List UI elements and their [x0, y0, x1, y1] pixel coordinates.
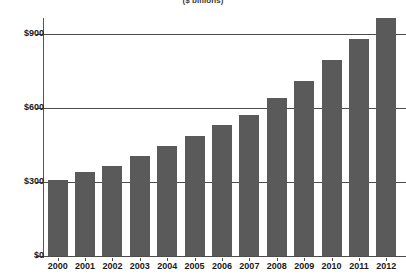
bar-2010[interactable]: [322, 60, 342, 256]
y-axis-tick-label: $0: [4, 250, 44, 260]
x-axis-tick-labels: 2000200120022003200420052006200720082009…: [44, 258, 400, 276]
y-axis-tick-label: $900: [4, 28, 44, 38]
bar-slot: [99, 0, 126, 256]
x-axis-baseline: [36, 256, 406, 257]
x-axis-tick-label-2010: 2010: [318, 261, 345, 271]
bar-series: [44, 0, 400, 256]
x-axis-tick-label-2006: 2006: [208, 261, 235, 271]
bar-2002[interactable]: [102, 166, 122, 256]
x-axis-tick-label-2011: 2011: [345, 261, 372, 271]
bar-2009[interactable]: [294, 81, 314, 256]
bar-2008[interactable]: [267, 98, 287, 256]
x-axis-tick-label-2009: 2009: [290, 261, 317, 271]
x-axis-tick-label-2007: 2007: [236, 261, 263, 271]
bar-2011[interactable]: [349, 39, 369, 256]
x-axis-tick-label-2003: 2003: [126, 261, 153, 271]
bar-slot: [236, 0, 263, 256]
x-axis-tick-label-2008: 2008: [263, 261, 290, 271]
bar-slot: [263, 0, 290, 256]
bar-2007[interactable]: [239, 115, 259, 256]
bar-slot: [71, 0, 98, 256]
x-axis-tick-label-2012: 2012: [373, 261, 400, 271]
bar-slot: [208, 0, 235, 256]
bar-2003[interactable]: [130, 156, 150, 256]
y-axis-tick-label: $600: [4, 102, 44, 112]
x-axis-tick-label-2001: 2001: [71, 261, 98, 271]
bar-2000[interactable]: [48, 180, 68, 256]
x-axis-tick-label-2002: 2002: [99, 261, 126, 271]
bar-slot: [44, 0, 71, 256]
bar-2006[interactable]: [212, 125, 232, 256]
y-axis-tick-label: $300: [4, 176, 44, 186]
bar-2005[interactable]: [185, 136, 205, 256]
bar-2004[interactable]: [157, 146, 177, 256]
bar-slot: [290, 0, 317, 256]
bar-slot: [154, 0, 181, 256]
x-axis-tick-label-2005: 2005: [181, 261, 208, 271]
bar-2001[interactable]: [75, 172, 95, 256]
x-axis-tick-label-2000: 2000: [44, 261, 71, 271]
bar-2012[interactable]: [376, 18, 396, 256]
bar-slot: [345, 0, 372, 256]
bar-slot: [318, 0, 345, 256]
bar-chart: ($ billions) $0$300$600$900 200020012002…: [0, 0, 406, 277]
bar-slot: [126, 0, 153, 256]
bar-slot: [373, 0, 400, 256]
x-axis-tick-label-2004: 2004: [154, 261, 181, 271]
bar-slot: [181, 0, 208, 256]
